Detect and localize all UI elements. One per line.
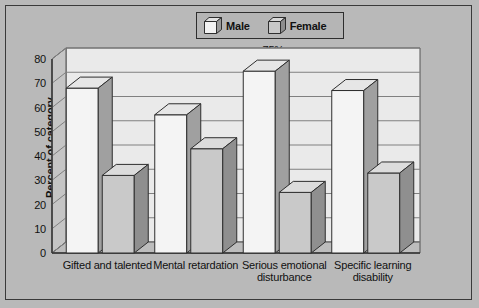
bar-female-0 xyxy=(102,164,148,253)
cube-icon-female xyxy=(268,17,286,34)
x-category-label: Specific learning disability xyxy=(321,259,426,283)
bar-female-2 xyxy=(279,181,325,253)
y-tick-label: 10 xyxy=(22,223,46,235)
y-tick-label: 70 xyxy=(22,77,46,89)
chart-figure: Male Female Percent of category 01020304… xyxy=(0,0,479,308)
plot-area: Percent of category 01020304050607080 Gi… xyxy=(52,48,420,253)
bar-female-1 xyxy=(191,138,237,253)
y-tick-label: 60 xyxy=(22,102,46,114)
bar-female-3 xyxy=(368,162,414,253)
y-tick-label: 80 xyxy=(22,53,46,65)
cube-icon-male xyxy=(204,17,222,34)
y-tick-label: 40 xyxy=(22,150,46,162)
chart-legend: Male Female xyxy=(196,12,344,39)
legend-label-female: Female xyxy=(290,20,327,32)
y-tick-label: 50 xyxy=(22,126,46,138)
bars-canvas xyxy=(52,48,420,253)
y-tick-label: 20 xyxy=(22,199,46,211)
y-tick-label: 30 xyxy=(22,174,46,186)
legend-label-male: Male xyxy=(226,20,250,32)
legend-entry-female: Female xyxy=(268,17,327,34)
y-tick-label: 0 xyxy=(22,247,46,259)
legend-entry-male: Male xyxy=(204,17,250,34)
